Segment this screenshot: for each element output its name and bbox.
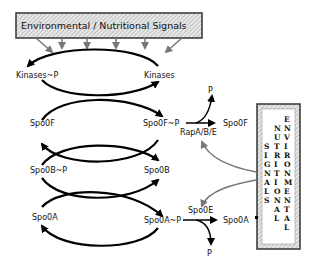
kinase-phosphorylation-arc — [28, 50, 158, 67]
svg-text:N: N — [284, 124, 291, 133]
rap-dephosphorylation: P Spo0F RapA/B/E — [180, 86, 248, 137]
spo0e-dephosphorylation: Spo0E Spo0A P — [183, 206, 249, 258]
svg-text:V: V — [283, 133, 290, 142]
node-spo0b: Spo0B — [144, 166, 170, 175]
svg-text:U: U — [274, 133, 281, 142]
svg-text:M: M — [284, 178, 292, 187]
rap-product-label: Spo0F — [223, 119, 248, 128]
svg-text:N: N — [264, 169, 271, 178]
svg-text:E: E — [284, 115, 290, 124]
svg-text:I: I — [284, 142, 288, 151]
node-kinases: Kinases — [144, 71, 175, 80]
svg-text:R: R — [274, 151, 281, 160]
rap-enzyme-label: RapA/B/E — [180, 128, 217, 137]
svg-text:S: S — [264, 142, 269, 151]
node-spo0a-p: Spo0A~P — [144, 216, 181, 225]
signals-box: Environmental / Nutritional Signals — [16, 13, 202, 38]
spo0e-product-label: Spo0A — [223, 216, 249, 225]
svg-text:I: I — [274, 178, 278, 187]
signals-box-label: Environmental / Nutritional Signals — [21, 20, 187, 31]
svg-text:S: S — [264, 196, 269, 205]
svg-text:T: T — [284, 205, 290, 214]
svg-text:O: O — [284, 160, 291, 169]
svg-text:A: A — [263, 178, 270, 187]
phosphorelay-diagram: Environmental / Nutritional Signals Kina… — [0, 0, 310, 266]
svg-text:A: A — [273, 205, 280, 214]
node-kinases-p: Kinases~P — [16, 71, 58, 80]
spo0e-enzyme-label: Spo0E — [188, 206, 213, 215]
svg-text:N: N — [284, 169, 291, 178]
svg-text:T: T — [274, 142, 280, 151]
svg-text:I: I — [264, 151, 268, 160]
svg-text:N: N — [274, 124, 281, 133]
svg-text:T: T — [274, 169, 280, 178]
rap-phosphate-label: P — [208, 86, 213, 95]
svg-text:I: I — [274, 160, 278, 169]
signal-to-rap-arrow — [202, 142, 256, 172]
svg-text:L: L — [264, 187, 270, 196]
svg-text:O: O — [274, 187, 281, 196]
svg-text:G: G — [264, 160, 270, 169]
side-signals-box: S I G N A L S N U T R I T I O N A L E N … — [255, 104, 300, 249]
svg-text:L: L — [284, 223, 290, 232]
svg-text:R: R — [284, 151, 291, 160]
node-spo0f: Spo0F — [30, 119, 55, 128]
signal-to-spo0e-arrow — [202, 180, 256, 206]
svg-text:A: A — [283, 214, 290, 223]
svg-text:E: E — [284, 187, 290, 196]
spo0e-phosphate-label: P — [207, 249, 212, 258]
node-spo0a: Spo0A — [32, 213, 58, 222]
svg-text:N: N — [284, 196, 291, 205]
node-spo0b-p: Spo0B~P — [30, 166, 67, 175]
svg-text:N: N — [274, 196, 281, 205]
node-spo0f-p: Spo0F~P — [143, 119, 179, 128]
svg-text:L: L — [274, 214, 280, 223]
